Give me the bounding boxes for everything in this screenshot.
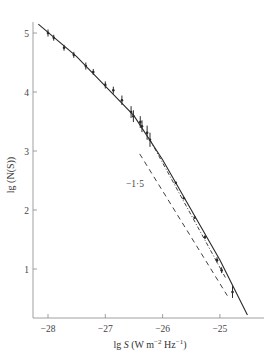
plot-series [38,24,247,315]
y-tick-label: 1 [24,265,29,275]
y-tick-label: 5 [24,29,29,39]
chart-canvas: −28−27−26−2512345 lg (N(S)) lg S (W m−2 … [0,0,280,358]
x-tick-label: −27 [98,324,113,334]
y-tick-label: 4 [24,88,29,98]
slope-reference-line [140,154,228,296]
dotted-extension-line [150,140,226,278]
x-tick-label: −25 [212,324,227,334]
x-tick-label: −28 [41,324,56,334]
y-tick-label: 3 [24,147,29,157]
x-axis-title: lg S (W m−2 Hz−1) [113,338,186,351]
x-tick-label: −26 [155,324,170,334]
y-tick-label: 2 [24,206,29,216]
axes: −28−27−26−2512345 [24,22,264,334]
slope-annotation: −1·5 [126,179,144,189]
fit-line [38,24,247,315]
y-axis-title: lg (N(S)) [5,157,17,193]
